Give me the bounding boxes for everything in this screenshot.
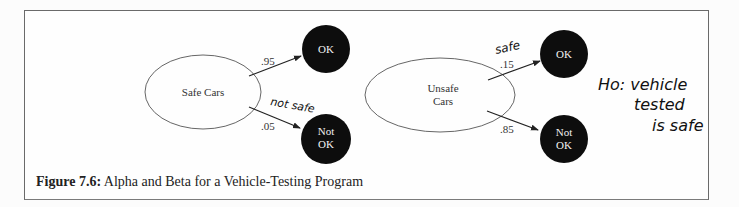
unsafe-not-ok-node: Not OK bbox=[540, 115, 588, 163]
edge-unsafe-to-ok: .15 safe bbox=[488, 38, 540, 80]
handwritten-annotation: not safe bbox=[269, 95, 315, 116]
safe-ok-node: OK bbox=[302, 25, 350, 73]
probability-label: .15 bbox=[500, 58, 514, 70]
ok-label: OK bbox=[556, 48, 572, 60]
unsafe-ok-node: OK bbox=[540, 30, 588, 78]
unsafe-cars-node: Unsafe Cars bbox=[365, 58, 515, 132]
ok-label: OK bbox=[556, 139, 572, 151]
edge-unsafe-to-not-ok: .85 bbox=[487, 111, 538, 135]
handwritten-annotation: safe bbox=[494, 38, 522, 57]
ok-label: OK bbox=[318, 138, 334, 150]
ok-label: OK bbox=[318, 43, 334, 55]
handwritten-hypothesis-note: Ho: vehicle tested is safe bbox=[598, 75, 704, 135]
safe-cars-node: Safe Cars bbox=[145, 55, 261, 129]
note-line-1: Ho: vehicle bbox=[598, 75, 687, 94]
safe-not-ok-node: Not OK bbox=[301, 114, 351, 164]
cars-label: Cars bbox=[433, 95, 453, 107]
not-label: Not bbox=[556, 126, 573, 138]
unsafe-label: Unsafe bbox=[427, 82, 458, 94]
figure-caption: Figure 7.6: Alpha and Beta for a Vehicle… bbox=[36, 174, 363, 190]
safe-cars-label: Safe Cars bbox=[182, 86, 224, 98]
probability-label: .05 bbox=[261, 120, 275, 132]
probability-label: .95 bbox=[261, 55, 275, 67]
figure-title: Alpha and Beta for a Vehicle-Testing Pro… bbox=[104, 174, 363, 189]
figure-number: Figure 7.6: bbox=[36, 174, 101, 189]
not-label: Not bbox=[318, 125, 335, 137]
probability-label: .85 bbox=[500, 123, 514, 135]
note-line-2: tested bbox=[634, 95, 686, 114]
note-line-3: is safe bbox=[652, 116, 704, 135]
edge-safe-to-ok: .95 bbox=[249, 55, 301, 76]
